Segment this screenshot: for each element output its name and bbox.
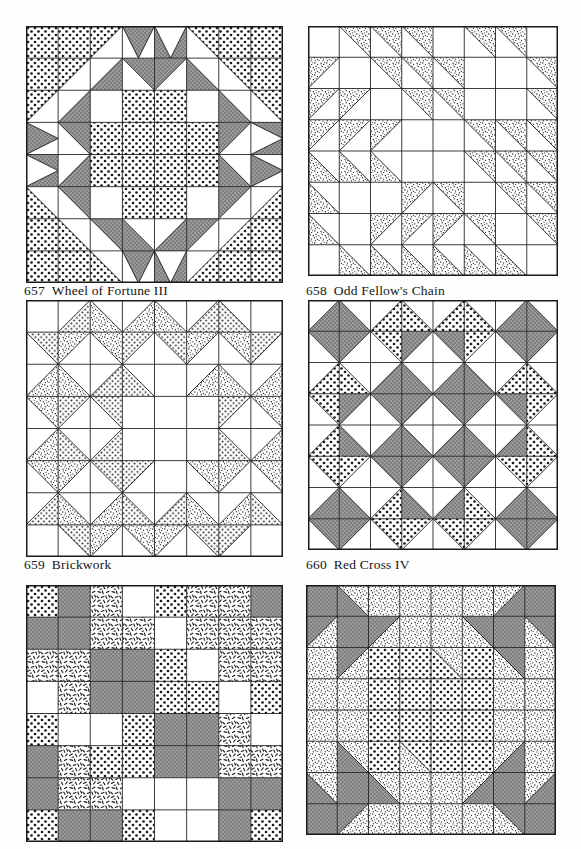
caption-659: 659Brickwork (24, 557, 111, 573)
caption-660: 660Red Cross IV (306, 557, 410, 573)
caption-number-658: 658 (306, 283, 327, 298)
caption-number-657: 657 (24, 283, 45, 298)
quilt-block-658[interactable] (308, 26, 558, 276)
quilt-block-659[interactable] (26, 300, 283, 557)
quilt-block-657[interactable] (26, 26, 283, 283)
caption-name-657: Wheel of Fortune III (52, 283, 168, 298)
caption-name-658: Odd Fellow's Chain (334, 283, 445, 298)
quilt-canvas-block-658 (308, 26, 558, 276)
quilt-canvas-block-662 (306, 585, 556, 835)
quilt-canvas-block-660 (308, 300, 558, 550)
caption-name-659: Brickwork (52, 557, 112, 572)
caption-name-660: Red Cross IV (334, 557, 410, 572)
quilt-block-661[interactable] (26, 585, 283, 842)
quilt-pattern-page: 657Wheel of Fortune III 658Odd Fellow's … (0, 0, 581, 849)
quilt-canvas-block-659 (26, 300, 283, 557)
quilt-canvas-block-657 (26, 26, 283, 283)
caption-number-660: 660 (306, 557, 327, 572)
quilt-block-660[interactable] (308, 300, 558, 550)
caption-number-659: 659 (24, 557, 45, 572)
caption-658: 658Odd Fellow's Chain (306, 283, 445, 299)
quilt-block-662[interactable] (306, 585, 556, 835)
quilt-canvas-block-661 (26, 585, 283, 842)
caption-657: 657Wheel of Fortune III (24, 283, 168, 299)
